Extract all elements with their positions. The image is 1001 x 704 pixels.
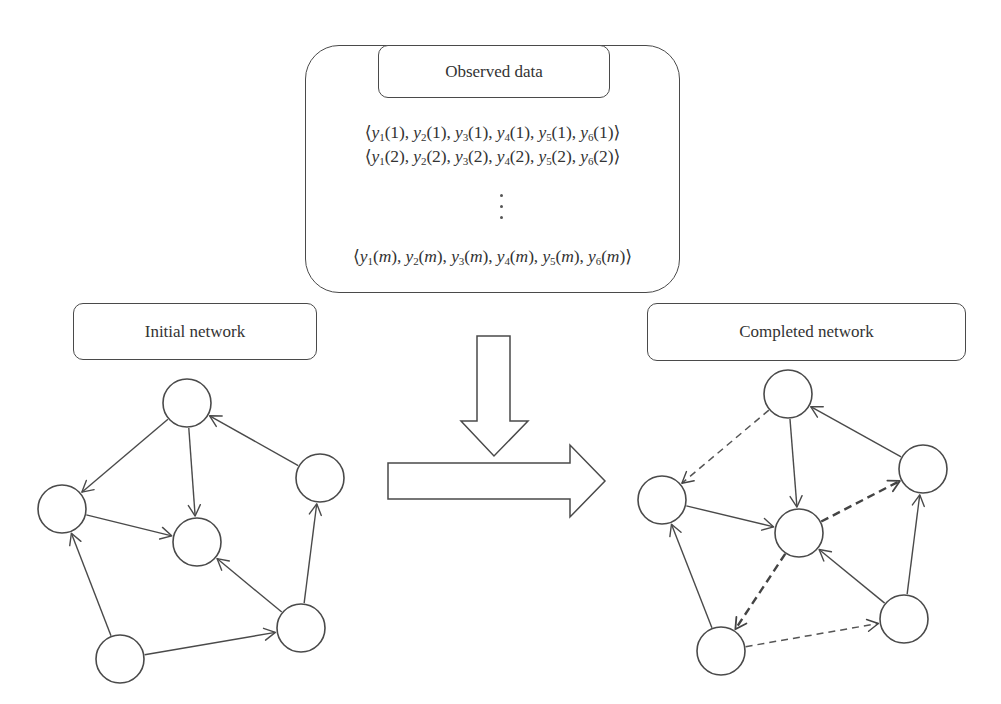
right-block-arrow-icon: [388, 445, 605, 517]
edge-left-to-center: [686, 506, 773, 527]
edge-top-to-left: [82, 419, 168, 492]
edge-left-to-center: [86, 515, 171, 536]
edge-bottom-to-bottom_right: [746, 623, 879, 646]
edge-top-to-center: [790, 419, 797, 507]
node-right: [899, 445, 947, 493]
edge-bottom-to-left: [71, 533, 111, 635]
initial-network-graph: [38, 379, 344, 683]
node-left: [38, 485, 86, 533]
edge-bottom_right-to-right: [304, 504, 317, 603]
node-bottom_right: [277, 604, 325, 652]
node-bottom: [96, 635, 144, 683]
completed-network-graph: [638, 370, 947, 675]
edge-bottom_right-to-right: [907, 495, 920, 594]
node-top: [163, 379, 211, 427]
arrowhead-icon: [887, 481, 900, 492]
edge-bottom-to-bottom_right: [145, 632, 276, 654]
node-top: [764, 370, 812, 418]
edge-bottom_right-to-center: [819, 549, 885, 603]
node-left: [638, 476, 686, 524]
down-block-arrow-icon: [461, 336, 528, 456]
node-bottom_right: [880, 595, 928, 643]
edge-center-to-right: [821, 481, 900, 522]
diagram-canvas: [0, 0, 1001, 704]
node-bottom: [697, 627, 745, 675]
node-center: [775, 509, 823, 557]
edge-bottom-to-left: [671, 524, 711, 627]
edge-top-to-center: [189, 428, 195, 516]
edge-bottom_right-to-center: [217, 559, 282, 612]
edge-right-to-top: [811, 407, 901, 457]
node-center: [173, 518, 221, 566]
node-right: [296, 454, 344, 502]
edge-center-to-bottom: [735, 554, 785, 629]
edge-top-to-left: [682, 410, 769, 483]
edge-right-to-top: [210, 416, 299, 466]
